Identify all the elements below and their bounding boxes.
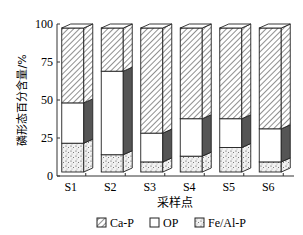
bar-s6 bbox=[259, 24, 290, 172]
x-tick-label: S3 bbox=[143, 180, 156, 194]
bars bbox=[62, 24, 291, 172]
bar-s2 bbox=[101, 24, 132, 172]
x-tick-label: S1 bbox=[64, 180, 77, 194]
segment-side-Fe/Al-P bbox=[84, 139, 93, 172]
legend-item-ca-p: Ca-P bbox=[97, 216, 134, 230]
segment-Ca-P bbox=[62, 28, 84, 103]
segment-side-Ca-P bbox=[202, 24, 211, 119]
y-tick-label: 100 bbox=[35, 17, 53, 31]
segment-Ca-P bbox=[220, 28, 242, 119]
segment-Fe/Al-P bbox=[141, 162, 163, 172]
y-axis-label: 磷形态百分含量/% bbox=[15, 54, 29, 145]
legend-label: Ca-P bbox=[110, 216, 134, 230]
segment-side-OP bbox=[242, 115, 251, 148]
segment-Fe/Al-P bbox=[220, 148, 242, 172]
segment-OP bbox=[101, 71, 123, 155]
segment-side-Ca-P bbox=[281, 24, 290, 129]
segment-OP bbox=[259, 129, 281, 162]
segment-Fe/Al-P bbox=[259, 162, 281, 172]
x-axis-label: 采样点 bbox=[157, 195, 193, 210]
segment-OP bbox=[220, 119, 242, 148]
segment-OP bbox=[141, 133, 163, 162]
bar-s5 bbox=[220, 24, 251, 172]
legend-swatch bbox=[195, 218, 204, 227]
segment-side-OP bbox=[281, 125, 290, 162]
x-tick-label: S2 bbox=[104, 180, 117, 194]
segment-Ca-P bbox=[180, 28, 202, 119]
segment-side-OP bbox=[202, 115, 211, 156]
y-tick-label: 75 bbox=[41, 55, 53, 69]
legend-swatch bbox=[150, 218, 159, 227]
segment-side-OP bbox=[163, 129, 172, 162]
x-tick-label: S4 bbox=[183, 180, 196, 194]
x-tick-label: S6 bbox=[262, 180, 275, 194]
segment-OP bbox=[62, 103, 84, 143]
segment-Fe/Al-P bbox=[62, 143, 84, 172]
segment-side-OP bbox=[123, 67, 132, 155]
segment-side-Ca-P bbox=[84, 24, 93, 103]
y-tick-label: 0 bbox=[47, 169, 53, 183]
stacked-bar-chart: 0255075100磷形态百分含量/%S1S2S3S4S5S6采样点 Ca-PO… bbox=[0, 0, 303, 235]
bar-s4 bbox=[180, 24, 211, 172]
bar-s1 bbox=[62, 24, 93, 172]
segment-side-OP bbox=[84, 99, 93, 143]
segment-side-Fe/Al-P bbox=[242, 144, 251, 172]
legend: Ca-POPFe/Al-P bbox=[97, 216, 246, 230]
y-tick-label: 50 bbox=[41, 93, 53, 107]
bar-s3 bbox=[141, 24, 172, 172]
legend-label: Fe/Al-P bbox=[208, 216, 246, 230]
segment-side-Ca-P bbox=[242, 24, 251, 119]
segment-Fe/Al-P bbox=[180, 156, 202, 172]
segment-Fe/Al-P bbox=[101, 155, 123, 172]
legend-item-fe-al-p: Fe/Al-P bbox=[195, 216, 246, 230]
legend-label: OP bbox=[163, 216, 179, 230]
segment-side-Ca-P bbox=[163, 24, 172, 133]
y-tick-label: 25 bbox=[41, 131, 53, 145]
segment-Ca-P bbox=[259, 28, 281, 129]
legend-item-op: OP bbox=[150, 216, 179, 230]
segment-Ca-P bbox=[101, 28, 123, 71]
legend-swatch bbox=[97, 218, 106, 227]
segment-side-Ca-P bbox=[123, 24, 132, 71]
x-tick-label: S5 bbox=[222, 180, 235, 194]
segment-Ca-P bbox=[141, 28, 163, 133]
segment-OP bbox=[180, 119, 202, 156]
